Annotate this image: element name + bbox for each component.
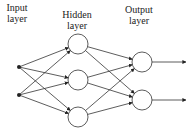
hidden-output-edge xyxy=(88,47,133,60)
hidden-node xyxy=(68,34,88,54)
output-layer-label: Output layer xyxy=(125,4,153,26)
output-layer-label-line2: layer xyxy=(125,15,153,26)
neural-network-diagram xyxy=(0,0,195,132)
output-layer-label-line1: Output xyxy=(125,4,153,15)
hidden-node xyxy=(68,70,88,90)
input-layer-label-line1: Input xyxy=(6,2,27,13)
input-layer-label: Input layer xyxy=(6,2,27,24)
connections xyxy=(19,47,186,115)
output-node xyxy=(132,90,152,110)
hidden-output-edge xyxy=(88,103,133,115)
hidden-output-edge xyxy=(88,65,133,78)
input-node xyxy=(17,93,21,97)
input-hidden-edge xyxy=(19,95,69,114)
output-node xyxy=(132,52,152,72)
input-hidden-edge xyxy=(19,67,68,78)
input-layer-label-line2: layer xyxy=(6,13,27,24)
hidden-output-edge xyxy=(86,51,135,94)
input-hidden-edge xyxy=(19,48,69,67)
neurons xyxy=(17,34,152,127)
input-node xyxy=(17,65,21,69)
hidden-layer-label-line1: Hidden xyxy=(62,9,91,20)
hidden-layer-label: Hidden layer xyxy=(62,9,91,31)
hidden-node xyxy=(68,107,88,127)
hidden-layer-label-line2: layer xyxy=(62,20,91,31)
